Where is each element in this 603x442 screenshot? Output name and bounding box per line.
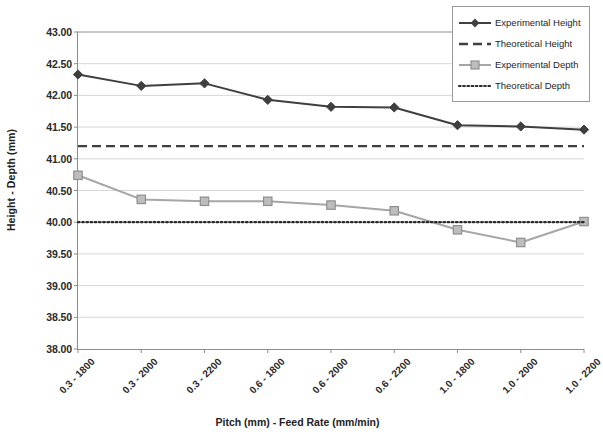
x-axis-tick-label: 0.3 - 1800: [57, 356, 97, 396]
legend-item[interactable]: Theoretical Depth: [458, 75, 585, 96]
y-axis-tick-label: 41.50: [46, 121, 72, 133]
legend-key-square-marker-icon: [458, 59, 492, 71]
y-axis-ticks: [74, 32, 78, 349]
y-axis-title-text: Height - Depth (mm): [5, 129, 17, 231]
x-axis-tick-label: 1.0 - 2200: [563, 356, 603, 396]
y-axis-tick-label: 40.00: [46, 216, 72, 228]
y-axis-tick-label: 42.50: [46, 58, 72, 70]
series-3: [74, 171, 588, 247]
legend-item-label: Experimental Height: [495, 17, 581, 28]
x-axis-title: Pitch (mm) - Feed Rate (mm/min): [0, 416, 595, 428]
x-axis-tick-label: 0.6 - 2200: [373, 356, 413, 396]
x-axis-tick-labels: 0.3 - 18000.3 - 20000.3 - 22000.6 - 1800…: [0, 352, 595, 412]
y-axis-tick-label: 43.00: [46, 26, 72, 38]
legend-key-dotted-line-icon: [458, 80, 492, 92]
x-axis-tick-label: 1.0 - 2000: [500, 356, 540, 396]
x-axis-tick-label: 0.3 - 2000: [120, 356, 160, 396]
chart-legend: Experimental HeightTheoretical HeightExp…: [452, 6, 590, 102]
legend-key-dashed-line-icon: [458, 38, 492, 50]
legend-item[interactable]: Experimental Depth: [458, 54, 585, 75]
legend-item-label: Theoretical Height: [495, 38, 572, 49]
y-axis-tick-label: 39.50: [46, 248, 72, 260]
y-axis-tick-label: 42.00: [46, 89, 72, 101]
y-axis-tick-label: 40.50: [46, 185, 72, 197]
y-axis-title: Height - Depth (mm): [2, 0, 20, 360]
x-axis-tick-label: 0.6 - 2000: [310, 356, 350, 396]
y-axis-tick-label: 39.00: [46, 280, 72, 292]
y-axis-tick-label: 38.50: [46, 311, 72, 323]
x-axis-tick-label: 0.6 - 1800: [247, 356, 287, 396]
x-axis-tick-label: 1.0 - 1800: [437, 356, 477, 396]
legend-item-label: Experimental Depth: [495, 59, 578, 70]
x-axis-tick-label: 0.3 - 2200: [184, 356, 224, 396]
legend-item[interactable]: Theoretical Height: [458, 33, 585, 54]
legend-item-label: Theoretical Depth: [495, 80, 570, 91]
legend-key-diamond-marker-icon: [458, 17, 492, 29]
y-axis-tick-label: 41.00: [46, 153, 72, 165]
legend-item[interactable]: Experimental Height: [458, 12, 585, 33]
